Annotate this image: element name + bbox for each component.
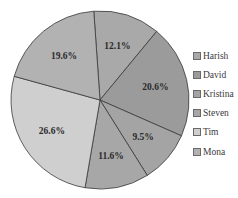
legend-swatch — [193, 90, 201, 98]
legend-item-steven: Steven — [193, 104, 234, 123]
legend-item-tim: Tim — [193, 123, 234, 142]
legend-label: Harish — [203, 51, 228, 61]
legend-item-harish: Harish — [193, 46, 234, 65]
legend-swatch — [193, 128, 201, 136]
legend-item-kristina: Kristina — [193, 84, 234, 103]
legend-label: Kristina — [203, 89, 234, 99]
legend-swatch — [193, 52, 201, 60]
legend-item-mona: Mona — [193, 142, 234, 161]
slice-percent-label: 9.5% — [132, 132, 153, 142]
legend-swatch — [193, 109, 201, 117]
legend-label: Tim — [203, 127, 219, 137]
slice-percent-label: 12.1% — [104, 41, 130, 51]
legend-label: Steven — [203, 108, 229, 118]
slice-percent-label: 20.6% — [142, 82, 168, 92]
legend-label: Mona — [203, 147, 225, 157]
slice-percent-label: 11.6% — [98, 151, 124, 161]
legend-swatch — [193, 71, 201, 79]
legend: Harish David Kristina Steven Tim Mona — [193, 46, 234, 161]
slice-percent-label: 19.6% — [51, 51, 77, 61]
legend-item-david: David — [193, 65, 234, 84]
legend-swatch — [193, 148, 201, 156]
legend-label: David — [203, 70, 226, 80]
slice-percent-label: 26.6% — [39, 126, 65, 136]
pie-slices — [11, 11, 189, 189]
